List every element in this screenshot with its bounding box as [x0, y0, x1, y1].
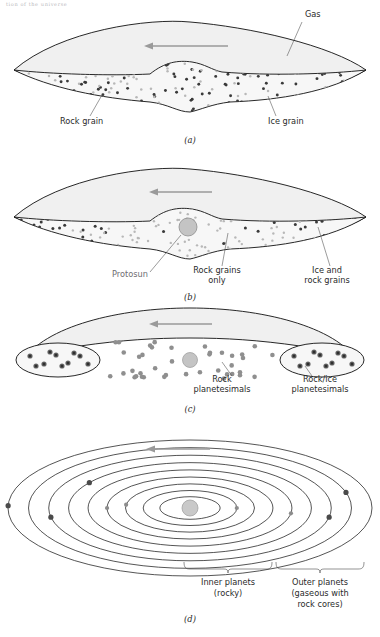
label-rock-planetesimals-line2: planetesimals — [193, 384, 250, 394]
label-inner-planets-line1: Inner planets — [201, 577, 255, 587]
label-outer-planets-line1: Outer planets — [292, 577, 348, 587]
caption-c: (c) — [184, 404, 195, 414]
rock-lobe-left-c — [16, 343, 100, 377]
label-rock-grains-only-line1: Rock grains — [193, 265, 241, 275]
panel-c: Rock planetesimals Rock/ice planetesimal… — [0, 300, 380, 435]
label-rock-grain: Rock grain — [60, 116, 103, 126]
caption-a: (a) — [184, 135, 196, 145]
protosun-b — [179, 218, 197, 236]
caption-d: (d) — [184, 614, 196, 624]
label-protosun: Protosun — [112, 269, 148, 279]
label-rock-grains-only-line2: only — [208, 275, 225, 285]
outer-planets-bracket — [276, 562, 364, 573]
sun-d — [182, 500, 198, 516]
label-gas: Gas — [305, 9, 321, 19]
label-rock-ice-planetesimals-line2: planetesimals — [291, 384, 348, 394]
label-outer-planets-line3: rock cores) — [297, 599, 342, 609]
panel-a: Gas Rock grain Ice grain (a) — [0, 0, 380, 160]
planets — [6, 480, 349, 520]
protosun-c — [183, 353, 198, 368]
label-inner-planets-line2: (rocky) — [214, 588, 242, 598]
rock-grain-leader — [90, 95, 102, 116]
label-outer-planets-line2: (gaseous with — [291, 588, 348, 598]
label-ice-and-rock-line1: Ice and — [312, 265, 342, 275]
rock-ice-lobe-right-c — [280, 343, 364, 377]
panel-b: Protosun Rock grains only Ice and rock g… — [0, 155, 380, 305]
label-rock-planetesimals-line1: Rock — [212, 374, 232, 384]
panel-d: Inner planets (rocky) Outer planets (gas… — [0, 430, 380, 637]
label-ice-and-rock-line2: rock grains — [304, 275, 349, 285]
label-rock-ice-planetesimals-line1: Rock/ice — [303, 374, 337, 384]
label-ice-grain: Ice grain — [268, 116, 304, 126]
rotation-arrow-d — [146, 446, 210, 453]
